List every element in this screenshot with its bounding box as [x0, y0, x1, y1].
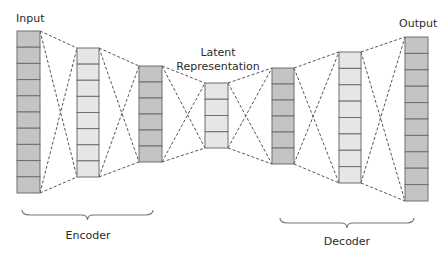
neuron-cell: [339, 118, 361, 134]
layer-encoder-hidden-2: [139, 66, 162, 162]
neuron-cell: [272, 116, 294, 132]
connector-line: [99, 48, 139, 66]
decoder-label: Decoder: [324, 235, 370, 248]
layer-decoder-hidden-1: [272, 68, 294, 164]
connector-line: [99, 162, 139, 177]
neuron-cell: [272, 100, 294, 116]
neuron-cell: [139, 114, 162, 130]
connector-line: [361, 37, 405, 183]
neuron-cell: [17, 112, 40, 128]
neuron-cell: [77, 48, 99, 64]
connector-line: [162, 83, 205, 162]
neuron-cell: [139, 98, 162, 114]
neuron-cell: [339, 150, 361, 166]
connector-line: [294, 68, 339, 183]
connector-line: [361, 183, 405, 201]
neuron-cell: [339, 101, 361, 117]
connector-line: [228, 148, 272, 164]
neuron-cell: [272, 68, 294, 84]
neuron-cell: [205, 83, 228, 99]
connector-line: [162, 148, 205, 162]
connector-line: [228, 83, 272, 164]
neuron-cell: [339, 167, 361, 183]
connector-line: [99, 48, 139, 162]
connector-line: [40, 31, 77, 48]
neuron-cell: [17, 161, 40, 177]
neuron-cell: [77, 80, 99, 96]
neuron-cell: [139, 146, 162, 162]
neuron-cell: [17, 144, 40, 160]
neuron-cell: [77, 96, 99, 112]
layer-latent: [205, 83, 228, 148]
neuron-cell: [17, 63, 40, 79]
braces: [22, 210, 414, 228]
input-label: Input: [16, 12, 44, 25]
neuron-cell: [405, 53, 428, 69]
neuron-cell: [405, 185, 428, 201]
neuron-cell: [77, 161, 99, 177]
neuron-cell: [339, 85, 361, 101]
neuron-cell: [139, 66, 162, 82]
neuron-cell: [17, 177, 40, 193]
neuron-cell: [272, 84, 294, 100]
neuron-cell: [272, 132, 294, 148]
neuron-cell: [17, 80, 40, 96]
connector-line: [99, 66, 139, 177]
neuron-cell: [139, 82, 162, 98]
encoder-label: Encoder: [66, 229, 111, 242]
neuron-cell: [405, 103, 428, 119]
neuron-cell: [272, 148, 294, 164]
neuron-cell: [405, 135, 428, 151]
connector-line: [361, 37, 405, 52]
encoder-brace: [22, 210, 153, 220]
latent-label-line2: Representation: [176, 60, 260, 73]
neuron-cell: [405, 37, 428, 53]
neuron-cell: [205, 116, 228, 132]
connector-line: [162, 66, 205, 148]
connector-line: [294, 52, 339, 68]
neuron-cell: [77, 64, 99, 80]
neuron-cell: [405, 168, 428, 184]
neuron-cell: [405, 70, 428, 86]
neuron-cell: [77, 145, 99, 161]
neuron-cell: [17, 96, 40, 112]
neuron-cell: [339, 52, 361, 68]
connector-line: [40, 48, 77, 193]
connector-line: [40, 177, 77, 193]
connector-line: [294, 52, 339, 164]
connector-line: [361, 52, 405, 201]
neuron-cell: [339, 134, 361, 150]
neuron-cell: [17, 47, 40, 63]
neuron-cell: [17, 31, 40, 47]
decoder-brace: [280, 218, 414, 228]
neuron-cell: [205, 99, 228, 115]
layer-decoder-hidden-2: [339, 52, 361, 183]
layer-output: [405, 37, 428, 201]
layer-encoder-hidden-1: [77, 48, 99, 177]
neuron-cell: [139, 130, 162, 146]
neuron-cell: [405, 119, 428, 135]
connector-line: [40, 31, 77, 177]
neuron-cell: [405, 152, 428, 168]
neuron-cell: [405, 86, 428, 102]
neuron-cell: [205, 132, 228, 148]
neuron-cell: [77, 113, 99, 129]
latent-label-line1: Latent: [200, 46, 235, 59]
output-label: Output: [399, 17, 437, 30]
autoencoder-diagram: [0, 0, 446, 260]
connector-line: [228, 68, 272, 148]
neuron-cell: [77, 129, 99, 145]
layer-input: [17, 31, 40, 193]
neuron-cell: [339, 68, 361, 84]
neuron-cell: [17, 128, 40, 144]
